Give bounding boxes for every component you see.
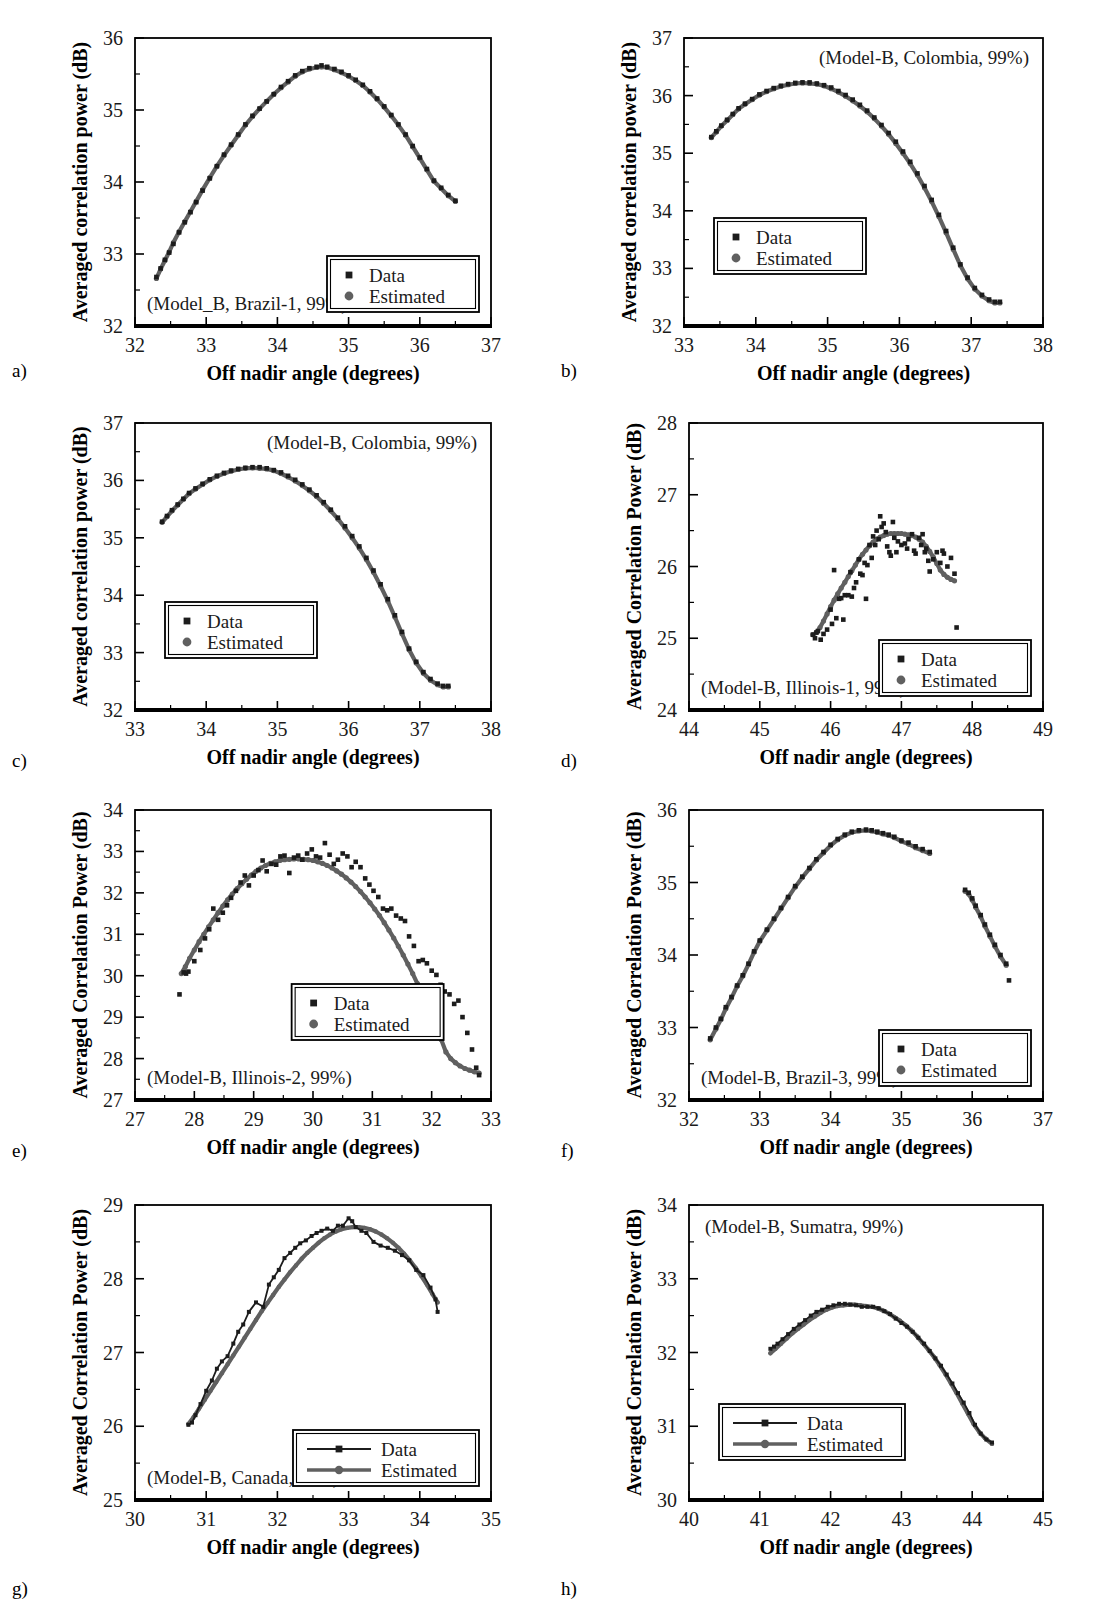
y-tick-label: 27 xyxy=(103,1089,123,1111)
data-point xyxy=(226,1354,230,1358)
x-axis-title: Off nadir angle (degrees) xyxy=(206,746,419,769)
y-axis: 3233343536 xyxy=(103,27,144,337)
x-tick-label: 37 xyxy=(1033,1108,1053,1130)
data-point xyxy=(850,594,855,599)
data-point xyxy=(170,508,175,513)
data-point xyxy=(358,865,363,870)
data-point xyxy=(836,89,841,94)
data-point xyxy=(222,471,227,476)
legend-label: Estimated xyxy=(807,1434,883,1455)
y-axis: 2526272829 xyxy=(103,1194,144,1511)
data-point xyxy=(993,300,998,305)
x-tick-label: 33 xyxy=(196,334,216,356)
plot-area xyxy=(810,514,959,642)
chart-g: 3031323334352526272829(Model-B, Canada, … xyxy=(0,1170,549,1608)
data-point xyxy=(903,541,908,546)
data-point xyxy=(379,1232,383,1236)
data-point xyxy=(818,637,823,642)
data-point xyxy=(843,1302,847,1306)
x-axis: 323334353637 xyxy=(679,1091,1053,1130)
data-point xyxy=(973,1423,977,1427)
data-point xyxy=(891,520,896,525)
series-data xyxy=(177,841,481,1078)
data-point xyxy=(821,618,826,623)
panel-label-h: h) xyxy=(561,1578,577,1600)
data-point xyxy=(894,550,899,555)
data-point xyxy=(973,286,978,291)
data-point xyxy=(922,1342,926,1346)
data-point xyxy=(403,919,408,924)
data-point xyxy=(800,80,805,85)
data-point xyxy=(325,65,330,70)
data-point xyxy=(949,556,954,561)
data-point xyxy=(238,880,243,885)
data-point xyxy=(242,1336,246,1340)
data-point xyxy=(215,474,220,479)
y-tick-label: 32 xyxy=(103,699,123,721)
legend-label: Data xyxy=(921,1039,957,1060)
data-point xyxy=(382,104,387,109)
data-point xyxy=(243,122,248,127)
data-point xyxy=(926,559,931,564)
data-point xyxy=(294,1263,298,1267)
data-point xyxy=(945,564,950,569)
data-point xyxy=(714,129,719,134)
data-point xyxy=(922,184,927,189)
data-point xyxy=(247,1310,251,1314)
data-point xyxy=(261,1305,265,1309)
plot-frame xyxy=(135,810,491,1100)
data-point xyxy=(396,944,401,949)
x-tick-label: 32 xyxy=(267,1508,287,1530)
data-point xyxy=(385,1236,389,1240)
x-tick-label: 32 xyxy=(679,1108,699,1130)
data-point xyxy=(200,482,205,487)
data-point xyxy=(190,1421,194,1425)
data-point xyxy=(271,1293,275,1297)
y-tick-label: 33 xyxy=(657,1268,677,1290)
data-point xyxy=(367,900,372,905)
data-point xyxy=(183,220,188,225)
series-estimated xyxy=(179,856,482,1075)
data-point xyxy=(916,1336,920,1340)
x-tick-label: 42 xyxy=(821,1508,841,1530)
data-point xyxy=(177,992,182,997)
data-point xyxy=(293,73,298,78)
data-point xyxy=(470,1047,475,1052)
data-point xyxy=(231,1353,235,1357)
data-point xyxy=(282,1277,286,1281)
data-point xyxy=(325,1227,329,1231)
data-point xyxy=(965,275,970,280)
data-point xyxy=(993,943,998,948)
x-tick-label: 40 xyxy=(679,1508,699,1530)
legend-label: Data xyxy=(381,1439,417,1460)
data-point xyxy=(884,530,889,535)
data-point xyxy=(310,1234,314,1238)
data-point xyxy=(752,949,757,954)
data-point xyxy=(353,78,358,83)
data-point xyxy=(719,1017,724,1022)
data-point xyxy=(414,660,419,665)
data-point xyxy=(181,497,186,502)
data-point xyxy=(160,519,165,524)
data-point xyxy=(944,229,949,234)
data-point xyxy=(850,97,855,102)
data-point xyxy=(192,947,197,952)
data-point xyxy=(984,1438,988,1442)
data-point xyxy=(938,568,943,573)
data-point xyxy=(293,1246,297,1250)
data-point xyxy=(187,491,192,496)
chart-b: 333435363738323334353637(Model-B, Colomb… xyxy=(549,0,1099,390)
data-point xyxy=(857,828,862,833)
chart-f: 3233343536373233343536(Model-B, Brazil-3… xyxy=(549,780,1099,1170)
x-tick-label: 31 xyxy=(362,1108,382,1130)
x-tick-label: 28 xyxy=(184,1108,204,1130)
data-point xyxy=(877,1306,881,1310)
data-point xyxy=(310,847,315,852)
data-point xyxy=(714,1025,719,1030)
data-point xyxy=(317,1240,321,1244)
data-point xyxy=(878,514,883,519)
data-point xyxy=(378,582,383,587)
series-line xyxy=(710,830,930,1040)
data-point xyxy=(379,1244,383,1248)
data-point xyxy=(939,1364,943,1368)
